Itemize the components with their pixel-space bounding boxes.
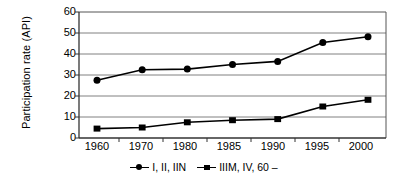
data-point-circle xyxy=(365,33,372,40)
data-point-square xyxy=(229,117,236,123)
legend-label-series-2: IIIM, IV, 60 – xyxy=(219,161,278,173)
data-point-square xyxy=(94,126,101,132)
data-point-circle xyxy=(274,58,281,65)
series-line xyxy=(97,37,368,81)
square-line-marker-icon xyxy=(197,162,216,172)
chart-container: Participation rate (API) 60 50 40 30 20 … xyxy=(0,0,408,181)
data-point-circle xyxy=(184,66,191,73)
circle-line-marker-icon xyxy=(130,162,149,172)
data-point-square xyxy=(184,119,191,125)
data-point-square xyxy=(274,116,281,122)
series-line xyxy=(97,100,368,129)
data-point-square xyxy=(319,104,326,110)
data-point-circle xyxy=(229,61,236,68)
legend-label-series-1: I, II, IIN xyxy=(152,161,186,173)
chart-legend: I, II, IIN IIIM, IV, 60 – xyxy=(0,158,408,176)
series-2 xyxy=(94,97,372,132)
legend-entry-series-2[interactable]: IIIM, IV, 60 – xyxy=(197,161,278,173)
plot-area xyxy=(0,0,408,181)
data-point-square xyxy=(139,125,146,131)
legend-entry-series-1[interactable]: I, II, IIN xyxy=(130,161,186,173)
data-point-circle xyxy=(94,77,101,84)
data-point-circle xyxy=(139,66,146,73)
data-point-square xyxy=(365,97,372,103)
data-point-circle xyxy=(319,39,326,46)
series-1 xyxy=(94,33,372,84)
